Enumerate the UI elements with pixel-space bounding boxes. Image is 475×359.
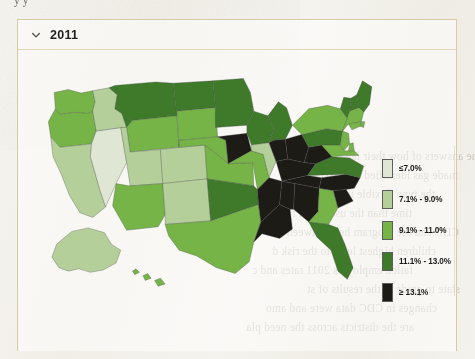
cut-off-body-text: y y xyxy=(14,0,465,10)
card-body: Washington — 9.1% - 11.0%Oregon — 9.1% -… xyxy=(18,50,456,351)
map-region-az[interactable]: Arizona — 9.1% - 11.0% xyxy=(113,184,166,231)
legend-swatch xyxy=(382,283,393,302)
legend-label: 7.1% - 9.0% xyxy=(399,195,443,204)
map-region-mn[interactable]: Minnesota — 11.1% - 13.0% xyxy=(213,78,254,127)
legend-label: 11.1% - 13.0% xyxy=(399,257,451,266)
us-map-svg: Washington — 9.1% - 11.0%Oregon — 9.1% -… xyxy=(18,50,380,351)
legend-swatch xyxy=(382,221,393,240)
map-region-mi[interactable]: Michigan — 11.1% - 13.0% xyxy=(268,102,293,143)
year-label: 2011 xyxy=(50,28,78,42)
map-region-ny[interactable]: New York — 9.1% - 11.0% xyxy=(292,105,347,134)
legend-label: ≥ 13.1% xyxy=(399,288,428,297)
chevron-down-icon[interactable] xyxy=(31,30,41,40)
map-region-nm[interactable]: New Mexico — 7.1% - 9.0% xyxy=(163,179,211,225)
legend-item: ≤7.0% xyxy=(382,158,456,178)
legend-swatch xyxy=(382,159,393,178)
map-region-wa[interactable]: Washington — 9.1% - 11.0% xyxy=(54,90,95,115)
legend-label: ≤7.0% xyxy=(399,164,422,173)
map-region-ak[interactable]: Alaska — 7.1% - 9.0% xyxy=(52,228,121,272)
map-region-hi[interactable]: Hawaii — 9.1% - 11.0% xyxy=(132,269,165,287)
us-choropleth-map: Washington — 9.1% - 11.0%Oregon — 9.1% -… xyxy=(18,50,380,351)
legend-item: 11.1% - 13.0% xyxy=(382,251,456,271)
map-legend: ≤7.0%7.1% - 9.0%9.1% - 11.0%11.1% - 13.0… xyxy=(382,158,456,313)
map-region-or[interactable]: Oregon — 9.1% - 11.0% xyxy=(48,109,96,148)
legend-label: 9.1% - 11.0% xyxy=(399,226,447,235)
legend-swatch xyxy=(382,190,393,209)
legend-item: ≥ 13.1% xyxy=(382,282,456,302)
card-header[interactable]: 2011 xyxy=(18,20,456,50)
map-region-wy[interactable]: Wyoming — 9.1% - 11.0% xyxy=(127,116,180,152)
legend-swatch xyxy=(382,252,393,271)
year-collapsible-card: 2011 Washington — 9.1% - 11.0%Oregon — 9… xyxy=(17,19,457,351)
map-region-ms[interactable]: Mississippi — ≥ 13.1% xyxy=(280,181,295,209)
map-region-fl[interactable]: Florida — 11.1% - 13.0% xyxy=(309,222,353,279)
legend-item: 7.1% - 9.0% xyxy=(382,189,456,209)
map-region-co[interactable]: Colorado — 7.1% - 9.0% xyxy=(160,145,207,184)
map-region-nc[interactable]: North Carolina — ≥ 13.1% xyxy=(319,174,360,190)
legend-item: 9.1% - 11.0% xyxy=(382,220,456,240)
